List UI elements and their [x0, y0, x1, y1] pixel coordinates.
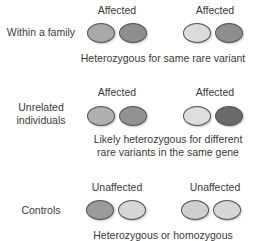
status-label: Affected	[93, 86, 141, 98]
row-label: Controls	[2, 204, 80, 217]
allele-ellipse	[87, 106, 115, 126]
allele-ellipse	[119, 23, 147, 43]
status-label: Unaffected	[90, 181, 144, 193]
allele-ellipse	[215, 23, 243, 43]
status-label: Unaffected	[186, 181, 244, 193]
status-label: Affected	[191, 86, 239, 98]
status-label: Affected	[93, 4, 141, 16]
status-label: Affected	[191, 4, 239, 16]
row-caption: Heterozygous for same rare variant	[70, 52, 256, 65]
allele-ellipse	[118, 200, 146, 220]
row-caption: Heterozygous or homozygous	[75, 229, 251, 241]
allele-ellipse	[119, 106, 147, 126]
allele-ellipse	[181, 200, 209, 220]
allele-ellipse	[183, 23, 211, 43]
allele-ellipse	[183, 106, 211, 126]
row-label: Unrelated individuals	[2, 101, 80, 127]
row-label: Within a family	[2, 26, 80, 39]
allele-ellipse	[87, 23, 115, 43]
allele-ellipse	[215, 106, 243, 126]
allele-ellipse	[213, 200, 241, 220]
allele-ellipse	[86, 200, 114, 220]
row-caption: Likely heterozygous for different rare v…	[80, 133, 256, 159]
